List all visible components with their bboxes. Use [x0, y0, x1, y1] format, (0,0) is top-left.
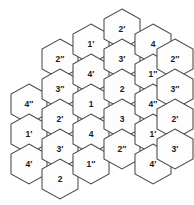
hexagonal-grid-figure: 4″1′4′2″3″2′3′21′4′141″2′3′232″41″4″1′4′…	[0, 0, 194, 205]
hex-cell-label: 3′	[157, 129, 193, 169]
hex-cell-layer: 4″1′4′2″3″2′3′21′4′141″2′3′232″41″4″1′4′…	[0, 0, 194, 205]
hex-cell[interactable]: 3′	[157, 129, 193, 169]
